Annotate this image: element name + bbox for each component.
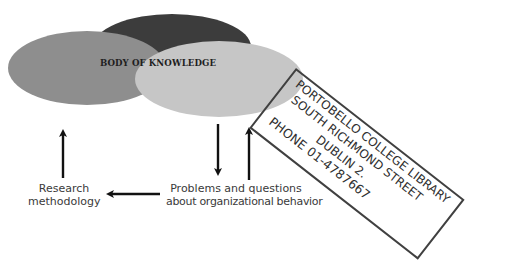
research-label-line1: Research [28, 182, 100, 195]
problems-questions-label: Problems and questions about organizatio… [166, 182, 306, 208]
body-of-knowledge-label: BODY OF KNOWLEDGE [98, 58, 218, 68]
problems-label-line2: about organizational behavior [166, 195, 306, 208]
problems-label-line1: Problems and questions [166, 182, 306, 195]
research-methodology-label: Research methodology [28, 182, 100, 208]
research-label-line2: methodology [28, 195, 100, 208]
